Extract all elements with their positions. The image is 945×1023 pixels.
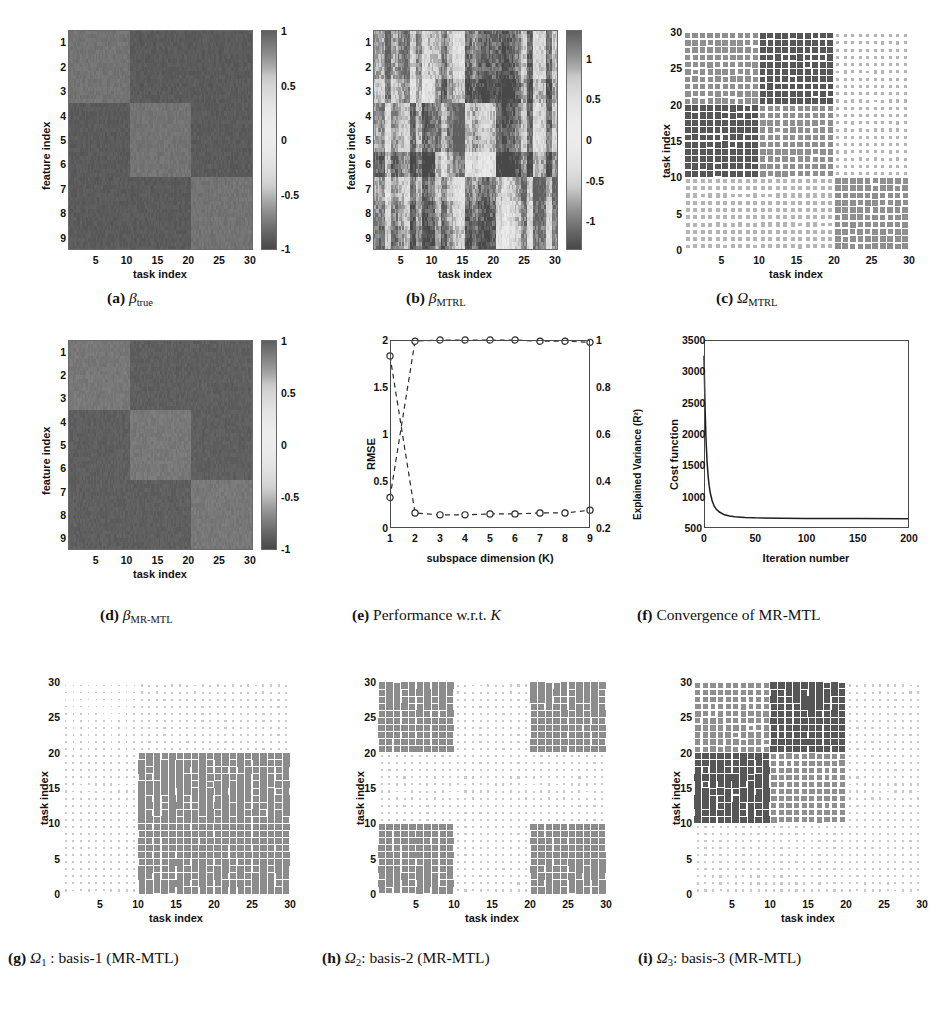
- y-tick: 3500: [682, 334, 702, 346]
- colorbar-tick: -0.5: [281, 189, 299, 201]
- y-tick: 30: [356, 676, 376, 688]
- y-tick: 8: [46, 207, 66, 219]
- y-tick: 25: [356, 711, 376, 723]
- caption-b-sub: MTRL: [437, 297, 466, 308]
- y-tick: 3: [351, 85, 371, 97]
- caption-g-var: Ω: [30, 949, 41, 966]
- x-tick: 10: [448, 898, 460, 910]
- panel-a-ylabel: feature index: [40, 122, 52, 190]
- y-tick: 3: [46, 85, 66, 97]
- caption-c: (c) ΩMTRL: [716, 288, 936, 308]
- colorbar-tick: 0: [281, 134, 287, 146]
- caption-g-text: : basis-1 (MR-MTL): [46, 949, 178, 966]
- y-tick: 1500: [682, 459, 702, 471]
- panel-g-ylabel: task index: [38, 771, 50, 825]
- lineplot-f: [704, 340, 909, 528]
- y-tick: 20: [662, 99, 682, 111]
- x-tick: 25: [562, 898, 574, 910]
- x-tick: 10: [132, 898, 144, 910]
- colorbar-tick: -0.5: [586, 175, 604, 187]
- y-tick: 500: [682, 522, 702, 534]
- y-tick: 5: [356, 853, 376, 865]
- x-tick: 30: [600, 898, 612, 910]
- caption-i-sub: 3: [668, 957, 673, 968]
- x-tick: 25: [866, 254, 878, 266]
- x-tick: 200: [900, 532, 918, 544]
- panel-g-xlabel: task index: [149, 912, 203, 924]
- y-tick: 9: [46, 232, 66, 244]
- x-tick: 25: [213, 254, 225, 266]
- caption-b: (b) βMTRL: [406, 288, 606, 308]
- x-tick: 5: [729, 898, 735, 910]
- y-tick: 25: [40, 711, 60, 723]
- x-tick: 30: [903, 254, 915, 266]
- panel-h-xlabel: task index: [465, 912, 519, 924]
- caption-a-sub: true: [137, 297, 153, 308]
- colorbar-tick: 0.5: [281, 80, 296, 92]
- x-tick: 5: [398, 254, 404, 266]
- y-tick: 25: [662, 62, 682, 74]
- y-tick: 30: [40, 676, 60, 688]
- y-tick: 1: [351, 36, 371, 48]
- y-tick-right: 0.4: [596, 475, 611, 487]
- y-tick-right: 0.6: [596, 428, 611, 440]
- y-tick: 2: [46, 369, 66, 381]
- x-tick: 10: [753, 254, 765, 266]
- panel-b-xlabel: task index: [438, 268, 492, 280]
- x-tick: 15: [170, 898, 182, 910]
- y-tick: 4: [351, 110, 371, 122]
- colorbar-tick: 1: [586, 53, 592, 65]
- panel-f-ylabel: Cost function: [668, 419, 680, 490]
- y-tick: 2: [368, 334, 388, 346]
- colorbar-tick: 1: [281, 25, 287, 37]
- caption-g-letter: (g): [8, 949, 26, 966]
- colorbar-tick: 0: [281, 439, 287, 451]
- y-tick: 2: [46, 61, 66, 73]
- x-tick: 20: [828, 254, 840, 266]
- x-tick: 30: [284, 898, 296, 910]
- caption-g-sub: 1: [41, 957, 46, 968]
- caption-c-sub: MTRL: [748, 297, 777, 308]
- x-tick: 30: [549, 254, 561, 266]
- y-tick: 0: [368, 522, 388, 534]
- x-tick: 2: [412, 532, 418, 544]
- y-tick: 9: [46, 532, 66, 544]
- y-tick: 20: [40, 747, 60, 759]
- x-tick: 15: [802, 898, 814, 910]
- x-tick: 25: [518, 254, 530, 266]
- caption-h-sub: 2: [356, 957, 361, 968]
- panel-b-ylabel: feature index: [345, 122, 357, 190]
- panel-a-xlabel: task index: [133, 268, 187, 280]
- colorbar-tick: 0.5: [586, 93, 601, 105]
- x-tick: 30: [244, 554, 256, 566]
- x-tick: 9: [587, 532, 593, 544]
- x-tick: 50: [749, 532, 761, 544]
- x-tick: 30: [916, 898, 928, 910]
- y-tick-right: 0.8: [596, 381, 611, 393]
- y-tick: 0.5: [368, 475, 388, 487]
- panel-e-ylabel-right: Explained Variance (R²): [632, 409, 643, 520]
- colorbar-tick: 1: [281, 335, 287, 347]
- colorbar-d: [261, 340, 277, 550]
- x-tick: 15: [152, 554, 164, 566]
- x-tick: 15: [486, 898, 498, 910]
- caption-h-letter: (h): [322, 949, 341, 966]
- caption-b-var: β: [429, 289, 437, 306]
- x-tick: 30: [244, 254, 256, 266]
- caption-d: (d) βMR-MTL: [100, 605, 320, 625]
- heatmap-b: [373, 30, 558, 250]
- caption-f-letter: (f): [637, 606, 653, 623]
- y-tick: 3: [46, 392, 66, 404]
- y-tick: 1000: [682, 491, 702, 503]
- colorbar-b: [566, 30, 582, 250]
- panel-e-xlabel: subspace dimension (K): [426, 552, 553, 564]
- heatmap-d: [68, 340, 253, 550]
- caption-a-var: β: [129, 289, 137, 306]
- x-tick: 15: [791, 254, 803, 266]
- y-tick: 8: [351, 207, 371, 219]
- x-tick: 10: [764, 898, 776, 910]
- hinton-h: [378, 682, 606, 894]
- y-tick: 1.5: [368, 381, 388, 393]
- caption-i-var: Ω: [657, 949, 668, 966]
- y-tick: 0: [662, 244, 682, 256]
